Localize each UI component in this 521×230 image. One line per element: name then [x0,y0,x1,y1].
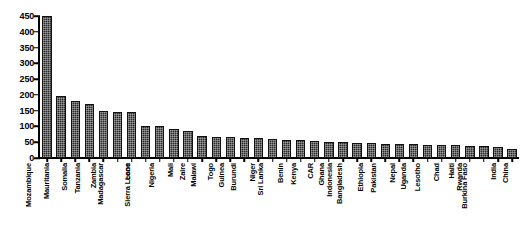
x-axis-tick-mark [370,158,372,162]
x-axis-tick-slot [491,158,505,162]
x-axis-category-label: Pakistan [370,163,378,193]
x-axis-tick-slot [251,158,265,162]
bar-series [40,16,519,158]
x-axis-category-label: Nigeria [148,163,156,187]
x-axis-tick-slot [181,158,195,162]
bar-slot [237,16,251,158]
y-axis-tick-mark [34,15,40,17]
x-axis-tick-slot [209,158,223,162]
x-axis-category-label: Mali [167,163,175,177]
bar [141,126,150,158]
bar-slot [125,16,139,158]
x-axis-category-label: Lesotho [414,163,422,191]
x-axis-tick-mark [215,158,217,162]
bar [507,149,516,158]
x-axis-tick-slot [336,158,350,162]
bar-slot [336,16,350,158]
x-axis-category-label: CAR [307,163,315,179]
bar-slot [195,16,209,158]
x-axis-category-label: Togo [208,163,216,180]
bar-slot [294,16,308,158]
bar-slot [96,16,110,158]
y-axis-tick-label: 400 [20,27,34,36]
bar [352,143,361,158]
bar-slot [167,16,181,158]
bar-slot [421,16,435,158]
x-axis-tick-slot [463,158,477,162]
x-axis-tick-slot [392,158,406,162]
x-axis-tick-mark [286,158,288,162]
x-axis-category-label: Indonesia [326,163,334,197]
bar-slot [266,16,280,158]
x-axis-tick-mark [173,158,175,162]
x-axis-tick-slot [237,158,251,162]
x-axis-tick-mark [497,158,499,162]
bar [71,101,80,158]
x-axis-category-label: Madagascar [97,163,105,205]
x-axis-tick-slot [40,158,54,162]
bar [324,142,333,158]
x-axis-tick-mark [511,158,513,162]
bar [310,141,319,158]
x-axis-tick-mark [314,158,316,162]
bar-slot [322,16,336,158]
x-axis-tick-mark [342,158,344,162]
bar-slot [364,16,378,158]
x-axis-tick-slot [294,158,308,162]
x-axis-tick-slot [110,158,124,162]
x-axis-tick-slot [82,158,96,162]
x-axis-category-label: Somalia [61,163,69,191]
x-axis-label-slot: China [505,163,519,229]
y-axis-tick-mark [34,157,40,159]
x-axis-tick-slot [139,158,153,162]
bar [437,145,446,158]
x-axis-tick-mark [399,158,401,162]
bar [226,137,235,158]
y-axis-tick-mark [34,78,40,80]
x-axis-category-label: India [490,163,498,180]
bar [367,143,376,158]
x-axis-tick-marks [40,158,519,162]
bar [155,126,164,158]
y-axis-tick-mark [34,141,40,143]
bar-slot [54,16,68,158]
x-axis-tick-slot [406,158,420,162]
x-axis-tick-mark [441,158,443,162]
y-axis-tick-mark [34,126,40,128]
bar-slot [449,16,463,158]
x-axis-category-labels: MozambiqueMauritaniaSomaliaTanzaniaZambi… [40,163,519,229]
y-axis-tick-label: 450 [20,12,34,21]
x-axis-tick-mark [46,158,48,162]
bar-slot [505,16,519,158]
bar-slot [378,16,392,158]
bar-slot [477,16,491,158]
x-axis-tick-slot [421,158,435,162]
bar [212,137,221,158]
bar [240,138,249,158]
x-axis-tick-mark [469,158,471,162]
x-axis-tick-mark [244,158,246,162]
bar [451,145,460,158]
bar-slot [463,16,477,158]
x-axis-tick-slot [449,158,463,162]
bar-slot [68,16,82,158]
x-axis-tick-slot [350,158,364,162]
y-axis-tick-label: 100 [20,122,34,131]
x-axis-category-label: Kenya [290,163,298,185]
x-axis-category-label: Chad [433,163,441,181]
y-axis-tick-label: 50 [24,138,34,147]
y-axis-tick-label: 250 [20,75,34,84]
bar-slot [153,16,167,158]
bar [465,146,474,158]
x-axis-category-label: Benin [277,163,285,183]
x-axis-category-label: China [502,163,510,183]
bar-slot [392,16,406,158]
x-axis-tick-mark [145,158,147,162]
x-axis-tick-slot [505,158,519,162]
x-axis-tick-mark [272,158,274,162]
bar [56,96,65,158]
x-axis-tick-slot [435,158,449,162]
x-axis-tick-slot [68,158,82,162]
x-axis-tick-slot [167,158,181,162]
y-axis-tick-mark [34,94,40,96]
